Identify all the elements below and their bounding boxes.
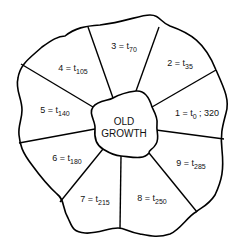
old-growth-label: OLD GROWTH	[101, 116, 147, 140]
spoke-5-6	[19, 129, 95, 143]
stand-label-2: 2 = t35	[167, 59, 193, 68]
old-growth-line2: GROWTH	[101, 128, 147, 140]
stand-label-1: 1 = t0 ; 320	[175, 109, 219, 118]
stand-label-9: 9 = t285	[176, 159, 205, 168]
spoke-9-1	[156, 130, 224, 139]
stand-label-3: 3 = t70	[111, 42, 137, 51]
spoke-1-2	[152, 70, 216, 107]
old-growth-line1: OLD	[101, 116, 147, 128]
stand-label-7: 7 = t215	[80, 195, 109, 204]
stand-label-6: 6 = t180	[52, 154, 81, 163]
spoke-2-3	[136, 27, 159, 91]
rotation-wheel-diagram: OLD GROWTH 1 = t0 ; 320 2 = t35 3 = t70 …	[0, 0, 239, 249]
spoke-3-4	[88, 27, 113, 98]
stand-label-4: 4 = t105	[58, 64, 87, 73]
spoke-7-8	[120, 156, 121, 228]
stand-label-8: 8 = t250	[137, 194, 166, 203]
stand-label-5: 5 = t140	[40, 106, 69, 115]
